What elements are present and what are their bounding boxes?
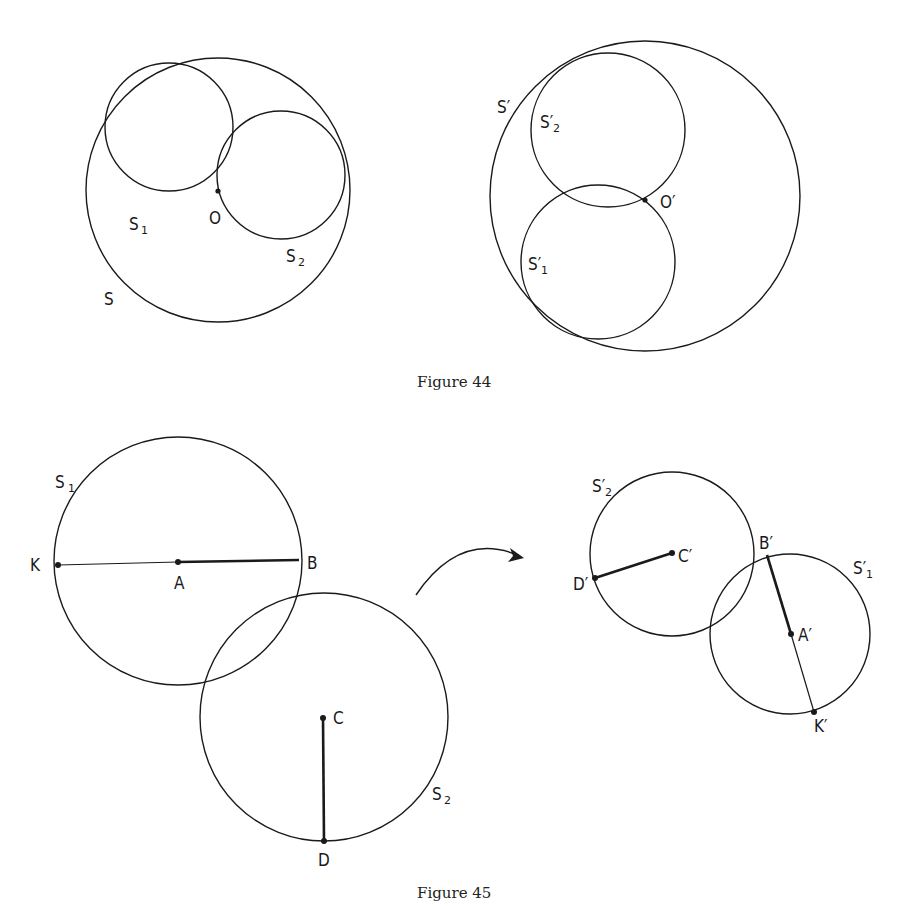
circle-s1-prime xyxy=(521,185,675,339)
label-s: S xyxy=(104,289,114,309)
radius-a-prime-b-prime xyxy=(767,555,791,634)
circle-s2 xyxy=(217,111,345,239)
label-b-prime: B′ xyxy=(759,533,773,553)
label-d: D xyxy=(318,850,330,870)
label-d-prime: D′ xyxy=(573,574,589,594)
radius-ab xyxy=(178,560,299,562)
label-s2-prime: S′ xyxy=(540,112,554,132)
point-k xyxy=(55,562,61,568)
label-s2-prime: S′ xyxy=(592,476,606,496)
label-a: A xyxy=(174,573,185,593)
curved-arrow-icon xyxy=(416,548,524,595)
label-k-prime: K′ xyxy=(814,716,828,736)
label-s1: S xyxy=(129,214,139,234)
point-a-prime xyxy=(788,631,794,637)
label-s1-prime-sub: 1 xyxy=(866,568,873,581)
label-s2-prime-sub: 2 xyxy=(553,122,560,135)
label-b: B xyxy=(307,553,318,573)
radius-c-prime-d-prime xyxy=(595,553,672,578)
point-d-prime xyxy=(592,575,598,581)
segment-ka xyxy=(58,562,178,565)
figure-45-right: S′ 2 C′ D′ B′ A′ K′ S′ 1 xyxy=(573,472,873,736)
label-s-prime: S′ xyxy=(497,97,511,117)
label-s2-sub: 2 xyxy=(298,256,305,269)
label-s1-prime-sub: 1 xyxy=(541,264,548,277)
segment-a-prime-k-prime xyxy=(791,634,814,712)
label-k: K xyxy=(30,555,41,575)
label-o: O xyxy=(209,208,221,228)
figure-44-left: S 1 O S 2 S xyxy=(86,58,350,322)
circle-s1 xyxy=(105,63,233,191)
caption-figure-44: Figure 44 xyxy=(417,373,491,391)
label-c: C xyxy=(333,708,344,728)
figures-canvas: S 1 O S 2 S S′ S′ 2 O′ S′ 1 Figure 44 S … xyxy=(0,0,909,910)
point-c xyxy=(320,715,326,721)
arrow-arc xyxy=(416,549,520,595)
label-s1-sub: 1 xyxy=(141,224,148,237)
label-o-prime: O′ xyxy=(660,192,676,212)
point-o xyxy=(215,188,220,193)
radius-cd xyxy=(323,718,324,841)
point-k-prime xyxy=(811,709,817,715)
figure-44-right: S′ S′ 2 O′ S′ 1 xyxy=(490,41,800,351)
arrow-head xyxy=(508,548,524,562)
point-c-prime xyxy=(669,550,675,556)
figure-45-left: S 1 K A B C D S 2 xyxy=(30,437,451,870)
label-s2: S xyxy=(286,246,296,266)
label-s1-prime: S′ xyxy=(853,558,867,578)
label-s2-sub: 2 xyxy=(444,794,451,807)
label-c-prime: C′ xyxy=(678,546,693,566)
label-a-prime: A′ xyxy=(798,625,812,645)
label-s1: S xyxy=(55,472,65,492)
label-s2: S xyxy=(432,784,442,804)
caption-figure-45: Figure 45 xyxy=(417,884,491,902)
point-a xyxy=(175,559,181,565)
label-s1-sub: 1 xyxy=(68,482,75,495)
point-o-prime xyxy=(642,197,647,202)
label-s2-prime-sub: 2 xyxy=(605,486,612,499)
circle-s-prime xyxy=(490,41,800,351)
label-s1-prime: S′ xyxy=(528,254,542,274)
point-d xyxy=(321,838,327,844)
